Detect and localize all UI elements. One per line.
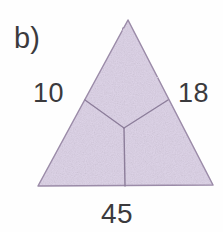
side-label-bottom: 45 — [101, 200, 133, 228]
side-label-right: 18 — [178, 80, 209, 107]
side-label-left: 10 — [33, 80, 64, 107]
partition-line-bottom — [124, 128, 125, 186]
part-label: b) — [14, 24, 40, 53]
figure-container: b) 10 18 45 — [0, 0, 223, 232]
